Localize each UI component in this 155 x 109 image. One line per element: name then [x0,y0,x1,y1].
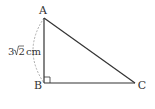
vertex-label-c: C [138,79,146,92]
side-ac [44,18,135,83]
length-coefficient: 3 [8,46,14,57]
triangle-diagram: A B C 3 2 cm [0,0,155,109]
side-length-label: 3 2 cm [8,46,42,57]
length-unit: cm [26,46,42,57]
vertex-label-b: B [34,79,42,92]
length-radicand: 2 [19,46,25,57]
vertex-label-a: A [38,4,48,17]
right-angle-marker [44,77,50,83]
